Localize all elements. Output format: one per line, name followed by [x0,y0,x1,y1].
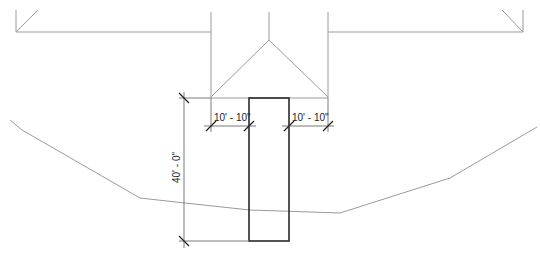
building-outline [16,10,523,98]
terrain-line [10,120,537,213]
central-rectangle [249,98,289,241]
drawing-canvas: 10' - 10" 10' - 10" 40' - 0" [0,0,540,255]
dimension-label-left: 10' - 10" [214,112,251,123]
dimension-label-length: 40' - 0" [171,152,182,183]
dimension-label-right: 10' - 10" [292,112,329,123]
dimension-left-offset: 10' - 10" [204,98,256,132]
